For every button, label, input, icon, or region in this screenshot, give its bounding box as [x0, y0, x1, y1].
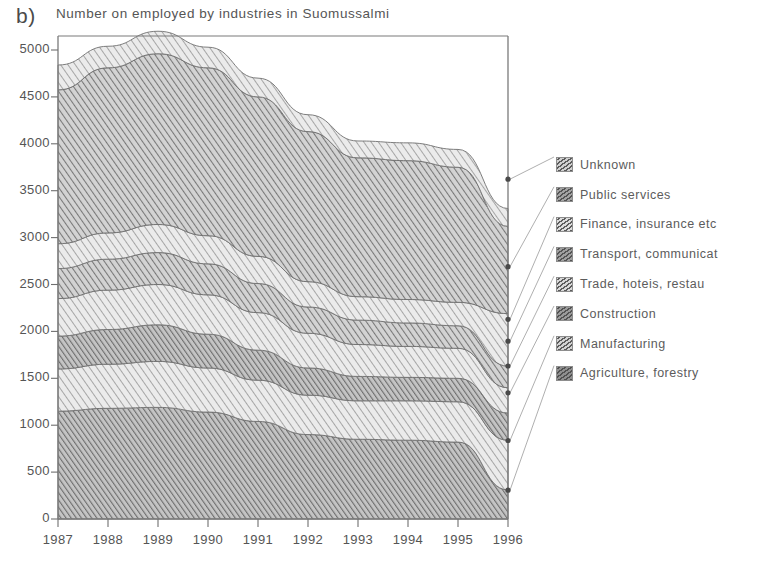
legend-leader-line	[510, 157, 554, 179]
series-endpoint-marker	[505, 264, 510, 269]
legend-leader-line	[510, 306, 554, 393]
legend-label: Finance, insurance etc	[580, 217, 717, 231]
legend-swatch-icon	[556, 217, 573, 232]
legend-item[interactable]: Finance, insurance etc	[556, 210, 766, 240]
y-tick-label: 2000	[0, 322, 50, 337]
legend-label: Trade, hoteis, restau	[580, 277, 705, 291]
legend-item[interactable]: Manufacturing	[556, 329, 766, 359]
series-endpoint-marker	[505, 488, 510, 493]
x-tick-label: 1996	[478, 532, 538, 547]
y-tick-label: 5000	[0, 41, 50, 56]
series-endpoint-marker	[505, 438, 510, 443]
legend-label: Manufacturing	[580, 337, 666, 351]
y-axis-ticks	[51, 50, 58, 519]
legend-leader-line	[510, 366, 554, 491]
chart-legend: Unknown Public services Finance, insuran…	[556, 150, 766, 388]
legend-item[interactable]: Construction	[556, 299, 766, 329]
x-axis-ticks	[58, 519, 508, 527]
legend-swatch-icon	[556, 306, 573, 321]
y-tick-label: 4000	[0, 135, 50, 150]
y-tick-label: 4500	[0, 88, 50, 103]
y-tick-label: 1500	[0, 369, 50, 384]
y-tick-label: 0	[0, 510, 50, 525]
y-tick-label: 3000	[0, 229, 50, 244]
series-endpoint-marker	[505, 317, 510, 322]
legend-item[interactable]: Transport, communicat	[556, 239, 766, 269]
legend-item[interactable]: Unknown	[556, 150, 766, 180]
legend-item[interactable]: Trade, hoteis, restau	[556, 269, 766, 299]
legend-swatch-icon	[556, 366, 573, 381]
series-endpoint-marker	[505, 177, 510, 182]
series-endpoint-marker	[505, 390, 510, 395]
legend-item[interactable]: Agriculture, forestry	[556, 359, 766, 389]
legend-leader-line	[510, 246, 554, 341]
legend-label: Agriculture, forestry	[580, 366, 699, 380]
legend-swatch-icon	[556, 247, 573, 262]
legend-swatch-icon	[556, 157, 573, 172]
legend-label: Unknown	[580, 158, 636, 172]
legend-swatch-icon	[556, 187, 573, 202]
area-series-group	[58, 31, 508, 519]
y-tick-label: 500	[0, 463, 50, 478]
y-tick-label: 3500	[0, 182, 50, 197]
legend-leader-line	[510, 187, 554, 267]
legend-leader-line	[510, 276, 554, 366]
legend-leader-lines	[510, 157, 554, 490]
legend-swatch-icon	[556, 336, 573, 351]
series-endpoint-marker	[505, 363, 510, 368]
series-endpoint-marker	[505, 339, 510, 344]
legend-label: Public services	[580, 188, 671, 202]
legend-label: Construction	[580, 307, 656, 321]
legend-label: Transport, communicat	[580, 247, 718, 261]
y-tick-label: 2500	[0, 276, 50, 291]
legend-item[interactable]: Public services	[556, 180, 766, 210]
legend-swatch-icon	[556, 277, 573, 292]
legend-leader-line	[510, 336, 554, 441]
figure-panel: b) Number on employed by industries in S…	[0, 0, 766, 566]
legend-leader-line	[510, 217, 554, 320]
y-tick-label: 1000	[0, 416, 50, 431]
